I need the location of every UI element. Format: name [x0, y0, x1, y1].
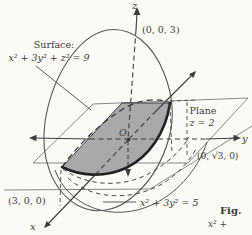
origin-label: O: [119, 127, 127, 138]
x-axis-negative-solid: [155, 74, 193, 112]
surface-label-line2: x² + 3y² + z² = 9: [8, 52, 89, 63]
textbook-figure-ellipsoid-plane: Surface: x² + 3y² + z² = 9 (0, 0, 3) (0,…: [0, 0, 252, 235]
projection-line-left: [60, 170, 61, 206]
y-axis-negative-solid: [33, 138, 90, 139]
xy-plane-front-edge: [4, 189, 150, 190]
z-intercept-label: (0, 0, 3): [142, 24, 180, 35]
caption-text: x² +: [208, 219, 227, 229]
surface-label-line1: Surface:: [34, 39, 75, 50]
x-intercept-label: (3, 0, 0): [8, 195, 46, 206]
x-axis-label: x: [30, 221, 36, 232]
z-axis-top-solid: [136, 13, 137, 30]
plane-label-line2: z = 2: [188, 117, 214, 128]
y-intercept-label: (0, √3, 0): [197, 151, 238, 161]
y-axis-left-arrowhead: [29, 135, 37, 141]
z-axis-down-arrowhead: [125, 169, 131, 177]
surface-label-leader: [36, 66, 91, 110]
y-axis-label: y: [241, 133, 248, 144]
z-axis-label: z: [131, 0, 138, 11]
origin-dot: [127, 138, 130, 141]
y-axis-right-arrowhead: [234, 135, 242, 141]
projection-line-mid: [170, 105, 172, 153]
x-axis-solid: [46, 175, 95, 226]
projection-curve-label: x² + 3y² = 5: [140, 197, 198, 208]
plane-label-line1: Plane: [190, 105, 217, 116]
caption-title: Fig.: [220, 205, 241, 216]
